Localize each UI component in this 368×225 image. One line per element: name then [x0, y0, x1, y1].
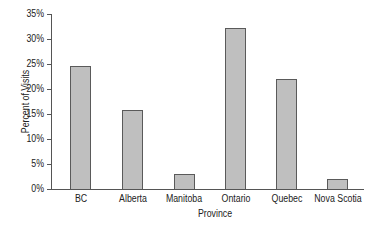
y-axis [51, 14, 52, 190]
bar-bc [70, 66, 91, 190]
y-tick-mark [47, 139, 51, 140]
x-axis-title: Province [184, 208, 246, 219]
x-axis [51, 189, 364, 190]
bar-manitoba [174, 174, 195, 190]
y-tick-label: 35% [14, 8, 44, 19]
y-tick-label: 0% [14, 183, 44, 194]
bar-alberta [122, 110, 143, 189]
y-tick-mark [47, 164, 51, 165]
y-tick-mark [47, 89, 51, 90]
y-tick-label: 5% [14, 158, 44, 169]
y-tick-mark [47, 14, 51, 15]
y-tick-label: 30% [14, 33, 44, 44]
y-tick-mark [47, 64, 51, 65]
x-tick-label: Nova Scotia [307, 193, 368, 204]
y-tick-mark [47, 114, 51, 115]
bar-quebec [276, 79, 297, 189]
y-tick-mark [47, 39, 51, 40]
bar-nova-scotia [327, 179, 348, 189]
bar-chart: 0%5%10%15%20%25%30%35% BCAlbertaManitoba… [0, 0, 368, 225]
y-tick-mark [47, 189, 51, 190]
y-axis-title: Percent of Visits [20, 53, 31, 150]
bar-ontario [225, 28, 246, 190]
